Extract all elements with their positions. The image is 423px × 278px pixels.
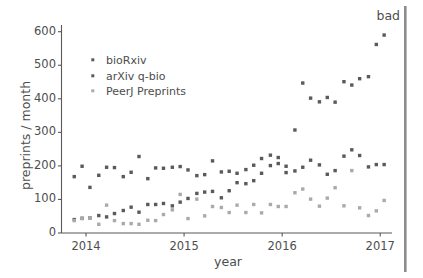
- data-point: [244, 182, 247, 185]
- data-point: [277, 156, 280, 159]
- data-point: [154, 219, 157, 222]
- data-point: [178, 200, 181, 203]
- data-point: [244, 168, 247, 171]
- data-point: [252, 179, 255, 182]
- data-point: [342, 80, 345, 83]
- data-point: [80, 217, 83, 220]
- data-point: [333, 186, 336, 189]
- data-point: [382, 163, 385, 166]
- data-point: [309, 159, 312, 162]
- series-arxiv-q-bio: [73, 148, 386, 189]
- data-point: [228, 170, 231, 173]
- data-point: [284, 205, 287, 208]
- data-point: [88, 216, 91, 219]
- data-point: [178, 193, 181, 196]
- data-point: [211, 190, 214, 193]
- data-point: [342, 154, 345, 157]
- data-point: [97, 223, 100, 226]
- data-point: [162, 202, 165, 205]
- data-point: [105, 203, 108, 206]
- data-point: [113, 212, 116, 215]
- data-point: [235, 181, 238, 184]
- data-point: [318, 100, 321, 103]
- bad-annotation-label: bad: [376, 10, 400, 23]
- data-point: [228, 211, 231, 214]
- data-point: [105, 166, 108, 169]
- data-point: [309, 197, 312, 200]
- data-point: [80, 165, 83, 168]
- data-point: [318, 163, 321, 166]
- data-point: [97, 214, 100, 217]
- data-point: [129, 222, 132, 225]
- data-point: [367, 75, 370, 78]
- data-point: [244, 211, 247, 214]
- data-point: [122, 175, 125, 178]
- data-point: [252, 164, 255, 167]
- data-point: [228, 189, 231, 192]
- data-point: [186, 197, 189, 200]
- legend-marker-1: [91, 74, 94, 77]
- data-point: [269, 153, 272, 156]
- y-axis-tick-label: 100: [28, 194, 56, 206]
- data-point: [113, 166, 116, 169]
- x-axis-title: year: [214, 256, 242, 269]
- data-point: [326, 96, 329, 99]
- data-point: [162, 167, 165, 170]
- data-point: [171, 204, 174, 207]
- data-point: [137, 155, 140, 158]
- data-point: [333, 100, 336, 103]
- data-point: [211, 205, 214, 208]
- data-point: [358, 206, 361, 209]
- data-point: [375, 163, 378, 166]
- data-point: [73, 219, 76, 222]
- data-point: [277, 205, 280, 208]
- data-point: [277, 162, 280, 165]
- data-point: [220, 170, 223, 173]
- data-point: [260, 172, 263, 175]
- data-point: [154, 166, 157, 169]
- data-point: [129, 171, 132, 174]
- x-axis-tick-label: 2016: [268, 241, 297, 253]
- data-point: [235, 172, 238, 175]
- data-point: [186, 168, 189, 171]
- data-point: [301, 81, 304, 84]
- data-point: [350, 148, 353, 151]
- data-point: [318, 204, 321, 207]
- data-point: [235, 203, 238, 206]
- data-point: [129, 205, 132, 208]
- data-point: [220, 206, 223, 209]
- data-point: [73, 175, 76, 178]
- data-point: [284, 171, 287, 174]
- x-axis-tick-label: 2017: [366, 241, 395, 253]
- data-point: [88, 186, 91, 189]
- data-point: [333, 169, 336, 172]
- data-point: [358, 77, 361, 80]
- data-point: [195, 192, 198, 195]
- data-point: [269, 164, 272, 167]
- data-point: [342, 204, 345, 207]
- data-point: [367, 214, 370, 217]
- plot-canvas: [0, 0, 423, 278]
- data-point: [137, 211, 140, 214]
- data-point: [350, 83, 353, 86]
- legend-marker-0: [91, 58, 94, 61]
- data-point: [195, 174, 198, 177]
- data-point: [97, 174, 100, 177]
- data-point: [301, 166, 304, 169]
- data-point: [203, 214, 206, 217]
- y-axis-tick-label: 500: [28, 60, 56, 72]
- data-point: [382, 199, 385, 202]
- data-point: [293, 169, 296, 172]
- data-point: [186, 217, 189, 220]
- data-point: [154, 203, 157, 206]
- data-point: [309, 96, 312, 99]
- scatter-chart-figure: 0100200300400500600 2014201520162017 pre…: [0, 0, 423, 278]
- divider-bar-layer: [404, 6, 407, 272]
- data-point: [137, 223, 140, 226]
- data-point: [146, 177, 149, 180]
- data-point: [122, 209, 125, 212]
- data-point: [122, 222, 125, 225]
- data-point: [113, 219, 116, 222]
- data-point: [171, 166, 174, 169]
- data-point: [171, 208, 174, 211]
